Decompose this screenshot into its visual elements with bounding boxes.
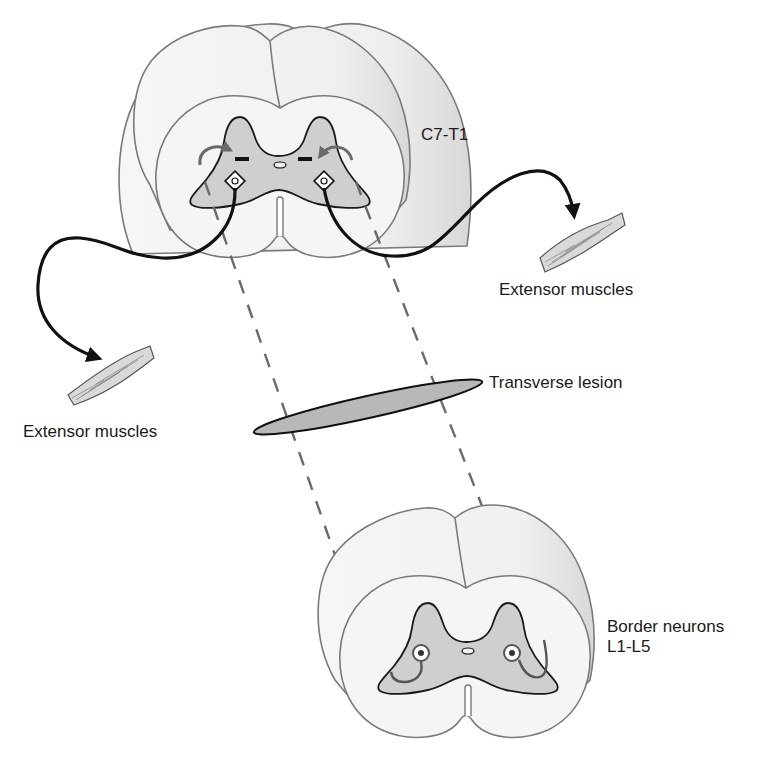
lower-cord: [318, 505, 594, 737]
right-extensor-muscles-label: Extensor muscles: [499, 280, 633, 300]
upper-cord: [134, 26, 410, 258]
lower-left-border-neuron: [413, 645, 429, 661]
upper-right-interneuron-bar: [298, 157, 312, 161]
right-extensor-muscle: [540, 213, 625, 272]
transverse-lesion: [251, 371, 484, 443]
lower-right-border-neuron: [504, 645, 520, 661]
upper-left-interneuron-bar: [235, 157, 249, 161]
transverse-lesion-label: Transverse lesion: [489, 373, 623, 393]
upper-cord-central-canal: [274, 162, 286, 168]
diagram-canvas: [0, 0, 774, 764]
lower-cord-central-canal: [462, 648, 474, 654]
left-extensor-muscles-label: Extensor muscles: [23, 422, 157, 442]
lower-cord-ventral-fissure: [465, 685, 471, 716]
border-neurons-segment-label: L1-L5: [607, 637, 650, 657]
border-neurons-label: Border neurons: [607, 617, 724, 637]
upper-segment-label: C7-T1: [421, 125, 468, 145]
left-extensor-muscle: [68, 346, 154, 405]
upper-cord-ventral-fissure: [277, 197, 283, 236]
